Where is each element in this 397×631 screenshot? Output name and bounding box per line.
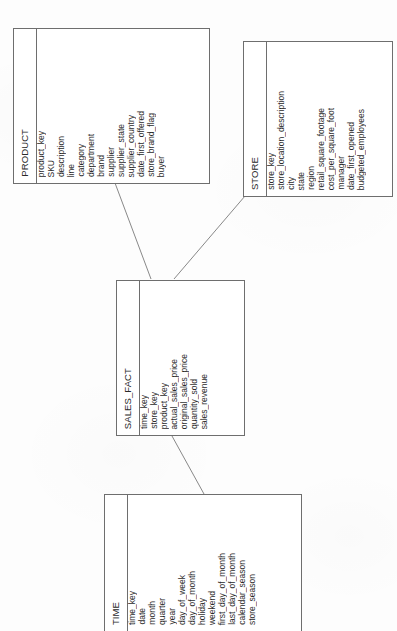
entity-time-title-cell: TIME [105,495,128,631]
entity-store-title: STORE [250,157,260,190]
entity-time-title: TIME [111,602,121,625]
relationship-line-product-salesfact [115,183,151,279]
entity-time-fields-cell: time_key date month quarter year day_of_… [128,495,301,631]
entity-sales-fact[interactable]: SALES_FACT time_key store_key product_ke… [116,280,245,436]
entity-store-fields-cell: store_key store_location_description cit… [267,42,392,196]
entity-store-field-list: store_key store_location_description cit… [267,46,392,190]
entity-time[interactable]: TIME time_key date month quarter year da… [104,494,302,631]
field-item[interactable]: store_season [248,574,258,625]
diagram-canvas: PRODUCT product_key SKU description line… [0,0,397,631]
entity-sales-fact-field-list: time_key store_key product_key actual_sa… [140,285,244,429]
field-item[interactable]: buyer [157,156,167,177]
entity-store[interactable]: STORE store_key store_location_descripti… [243,41,393,197]
entity-product-fields-cell: product_key SKU description line categor… [37,29,209,183]
entity-product-title: PRODUCT [20,129,30,177]
entity-product[interactable]: PRODUCT product_key SKU description line… [13,28,210,184]
entity-time-field-list: time_key date month quarter year day_of_… [128,499,301,625]
entity-product-title-cell: PRODUCT [14,29,37,183]
relationship-line-store-salesfact [174,196,245,279]
field-item[interactable]: sales_revenue [200,374,210,429]
entity-sales-fact-title-cell: SALES_FACT [117,281,140,435]
entity-store-title-cell: STORE [244,42,267,196]
field-item[interactable]: budgeted_employees [357,109,367,190]
entity-product-field-list: product_key SKU description line categor… [37,33,209,177]
relationship-line-salesfact-time [172,436,204,494]
entity-sales-fact-fields-cell: time_key store_key product_key actual_sa… [140,281,244,435]
entity-sales-fact-title: SALES_FACT [123,368,133,429]
field-item[interactable]: store_location_description [277,91,287,190]
